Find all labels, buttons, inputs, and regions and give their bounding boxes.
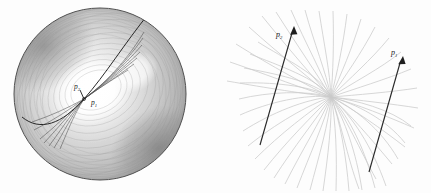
geodesic-fan-panel: p2 p1 <box>215 0 431 193</box>
figure-root: p2 p1 <box>0 0 431 193</box>
label-p2-right: p2 <box>275 30 283 40</box>
shaded-disk-panel: p2 p1 <box>0 0 215 193</box>
label-p1-right: p1 <box>390 48 397 58</box>
disk-svg: p2 p1 <box>0 0 215 193</box>
disk-interior <box>0 0 215 193</box>
fan-svg: p2 p1 <box>215 0 431 193</box>
